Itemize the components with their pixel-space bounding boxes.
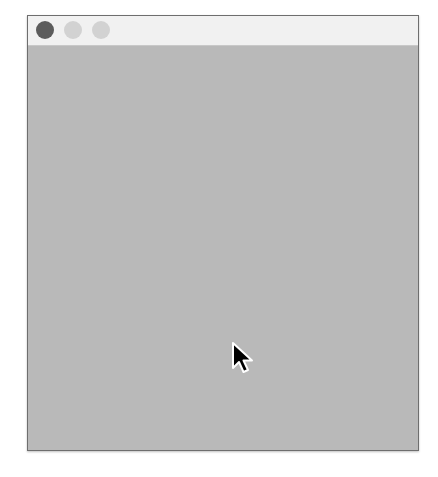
app-window	[27, 15, 419, 451]
arrow-pointer-icon	[231, 341, 257, 375]
minimize-button[interactable]	[64, 21, 82, 39]
window-content[interactable]	[28, 46, 418, 450]
close-button[interactable]	[36, 21, 54, 39]
zoom-button[interactable]	[92, 21, 110, 39]
title-bar[interactable]	[28, 16, 418, 46]
